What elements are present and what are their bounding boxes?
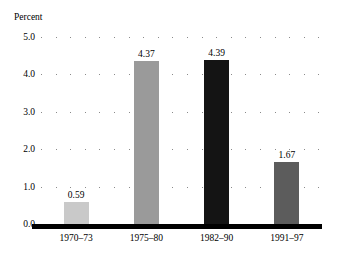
x-axis-tick-label: 1982–90 (200, 232, 233, 244)
bar-group[interactable]: 1.67 (274, 37, 299, 224)
x-axis-tick-label: 1991–97 (270, 232, 303, 244)
x-axis-tick-label: 1975–80 (130, 232, 163, 244)
bar[interactable] (64, 202, 89, 224)
bar-group[interactable]: 4.39 (204, 37, 229, 224)
bar-group[interactable]: 0.59 (64, 37, 89, 224)
y-axis-tick-label: 1.0 (23, 182, 35, 192)
y-axis-tick-label: 3.0 (23, 107, 35, 117)
bar-value-label: 0.59 (68, 190, 85, 200)
y-axis-tick-label: 4.0 (23, 69, 35, 79)
x-axis-line (32, 224, 322, 229)
plot-area: 0.594.374.391.67 (41, 37, 322, 224)
bars-layer: 0.594.374.391.67 (41, 37, 322, 224)
x-axis-tick-labels: 1970–731975–801982–901991–97 (41, 232, 322, 248)
bar-chart-figure: Percent 5.04.03.02.01.00.0 0.594.374.391… (0, 0, 345, 261)
y-axis-tick-label: 5.0 (23, 32, 35, 42)
bar[interactable] (204, 60, 229, 224)
bar-value-label: 4.39 (208, 48, 225, 58)
bar[interactable] (274, 162, 299, 224)
bar-value-label: 1.67 (279, 150, 296, 160)
y-axis-tick-label: 2.0 (23, 144, 35, 154)
y-axis-tick-labels: 5.04.03.02.01.00.0 (0, 37, 38, 224)
bar[interactable] (134, 61, 159, 224)
bar-value-label: 4.37 (138, 49, 155, 59)
bar-group[interactable]: 4.37 (134, 37, 159, 224)
y-axis-unit-label: Percent (14, 12, 43, 23)
x-axis-tick-label: 1970–73 (60, 232, 93, 244)
